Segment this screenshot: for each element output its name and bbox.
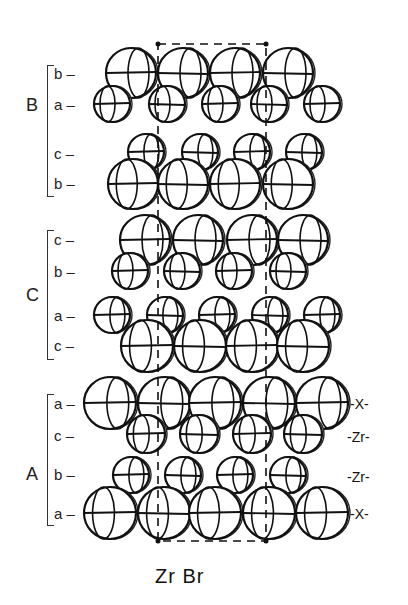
atom-sphere xyxy=(243,487,297,539)
layer-label: b – xyxy=(54,66,75,81)
layer-label: a – xyxy=(54,506,75,521)
atom-sphere xyxy=(284,415,324,453)
atom-sphere xyxy=(251,86,289,122)
atom-sphere xyxy=(226,320,280,372)
atom-sphere xyxy=(216,253,254,289)
atom-sphere xyxy=(164,253,202,289)
layer-label: c – xyxy=(54,146,74,161)
atom-sphere xyxy=(121,320,175,372)
group-label-c: C xyxy=(26,286,39,304)
atom-sphere xyxy=(174,320,228,372)
atom-sphere xyxy=(94,297,132,333)
layer-label: b – xyxy=(54,264,75,279)
group-bracket-a xyxy=(47,394,54,526)
atom-sphere xyxy=(127,415,167,453)
unit-cell-corner xyxy=(156,42,161,47)
atom-sphere xyxy=(270,253,308,289)
layer-label: a – xyxy=(54,308,75,323)
layer-label: a – xyxy=(54,396,75,411)
atom-sphere xyxy=(112,253,150,289)
atom-sphere xyxy=(202,86,240,122)
atom-sphere xyxy=(304,86,342,122)
atom-sphere xyxy=(189,487,243,539)
atom-sphere xyxy=(277,320,331,372)
atom-sphere xyxy=(180,415,220,453)
atom-sphere xyxy=(138,487,192,539)
zrbr-structure-figure: B C A b – a – c – b – c – b – a – c – a … xyxy=(0,0,408,605)
group-label-b: B xyxy=(26,96,38,114)
group-bracket-b xyxy=(47,65,54,197)
atom-sphere xyxy=(210,159,262,209)
layer-label: b – xyxy=(54,467,75,482)
group-bracket-c xyxy=(47,230,54,360)
atom-sphere xyxy=(296,487,350,539)
layer-label: c – xyxy=(54,232,74,247)
atom-sphere xyxy=(158,159,210,209)
unit-cell-corner xyxy=(264,42,269,47)
atom-type-label-zr: -Zr- xyxy=(347,430,370,444)
atom-sphere xyxy=(108,159,160,209)
atom-sphere xyxy=(84,377,138,429)
atom-sphere xyxy=(263,159,315,209)
atom-sphere xyxy=(149,86,187,122)
figure-caption: Zr Br xyxy=(155,565,204,588)
layer-label: c – xyxy=(54,428,74,443)
atom-type-label-x: -X- xyxy=(350,397,369,411)
layer-label: b – xyxy=(54,176,75,191)
atom-type-label-zr: -Zr- xyxy=(347,470,370,484)
layer-label: c – xyxy=(54,338,74,353)
atom-sphere xyxy=(233,415,273,453)
unit-cell-corner xyxy=(264,539,269,544)
atom-type-label-x: -X- xyxy=(350,507,369,521)
unit-cell-corner xyxy=(156,539,161,544)
atom-sphere xyxy=(84,487,138,539)
layer-label: a – xyxy=(54,97,75,112)
atom-sphere xyxy=(94,86,132,122)
group-label-a: A xyxy=(26,465,38,483)
